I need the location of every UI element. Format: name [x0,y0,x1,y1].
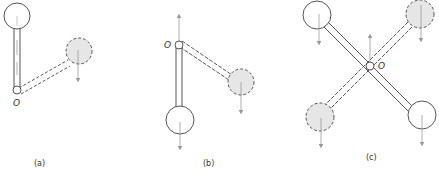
rod-solid [176,46,182,108]
dashed-mass [406,0,434,28]
caption-c: (c) [366,153,377,162]
dashed-mass [306,103,334,131]
panel-a: O (a) [4,3,92,168]
caption-a: (a) [34,159,45,168]
caption-b: (b) [203,159,214,168]
panel-b: O (b) [164,16,254,168]
rod-dashed [19,60,70,94]
solid-mass [303,1,331,29]
pivot-label: O [378,61,385,71]
pivot [13,86,21,94]
dashed-mass [66,38,92,64]
pivot-label: O [13,98,20,108]
pivot [175,41,183,49]
rod-solid [14,28,20,88]
rod-dashed [180,41,232,80]
pendulum-diagram: O (a) O (b) [0,0,439,174]
panel-c: O (c) [303,0,436,162]
pivot [366,62,374,70]
pivot-label: O [164,40,171,50]
